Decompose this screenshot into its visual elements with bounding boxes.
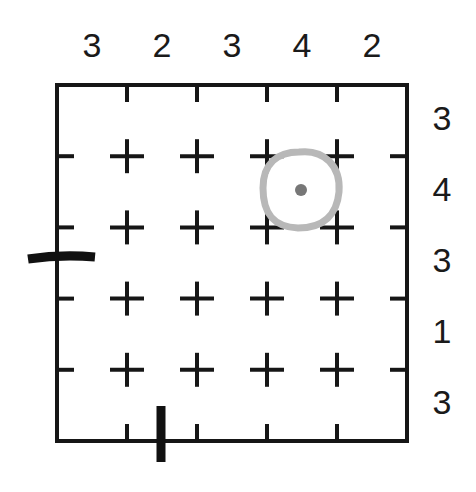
right-clue-column: 34313 [433,99,452,422]
right-clue-1: 3 [433,99,452,137]
puzzle-diagram: 32342 34313 [0,0,476,492]
right-clue-2: 4 [433,170,452,208]
top-clue-3: 3 [223,26,242,64]
cross-4-3 [320,282,354,316]
top-clue-1: 3 [83,26,102,64]
cross-2-4 [180,353,214,387]
highlight-center-dot [295,184,307,196]
cross-1-3 [110,282,144,316]
cross-3-4 [250,353,284,387]
grid-frame [57,85,407,441]
puzzle-canvas: 32342 34313 [0,0,476,492]
top-clue-4: 4 [293,26,312,64]
cross-1-2 [110,210,144,244]
highlight-annotation [263,152,339,228]
cross-1-4 [110,353,144,387]
top-clue-row: 32342 [83,26,382,64]
right-clue-4: 1 [433,312,452,350]
right-clue-5: 3 [433,383,452,421]
cross-4-4 [320,353,354,387]
edge-tick-marks [57,85,407,441]
cross-2-1 [180,139,214,173]
grid-border [57,85,407,441]
cross-4-2 [320,210,354,244]
left-edge-dash[interactable] [28,256,95,259]
cross-2-3 [180,282,214,316]
user-drawn-marks[interactable] [28,256,161,462]
right-clue-3: 3 [433,241,452,279]
cross-3-3 [250,282,284,316]
cross-1-1 [110,139,144,173]
cross-2-2 [180,210,214,244]
top-clue-5: 2 [363,26,382,64]
interior-cross-marks [110,139,354,387]
top-clue-2: 2 [153,26,172,64]
